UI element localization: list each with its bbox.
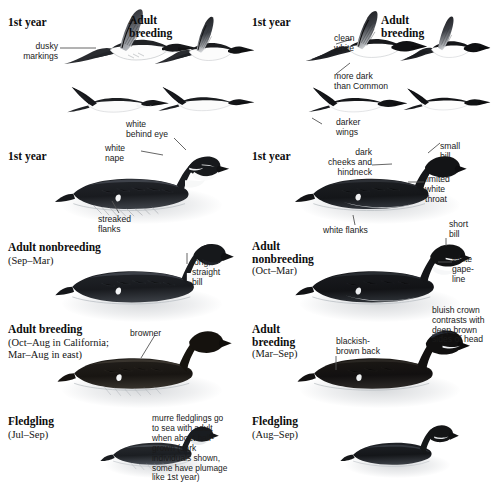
label-left-adult-nonbreeding-dates: (Sep–Mar)	[8, 255, 54, 267]
callout-limited-white-throat: limited white throat	[425, 175, 450, 204]
callout-white-gape-line: white gape- line	[452, 255, 474, 284]
callout-small-bill: small bill	[440, 142, 460, 162]
label-left-adult-breeding: Adult breeding	[8, 323, 82, 336]
callout-more-dark-than-common: more dark than Common	[334, 72, 388, 92]
field-guide-plate: 1st year Adult breeding dusky markings w…	[0, 0, 491, 483]
label-right-1st-year-swim: 1st year	[252, 150, 291, 163]
label-left-adult-nonbreeding: Adult nonbreeding	[8, 241, 101, 254]
label-left-adult-breeding-flight: Adult breeding	[129, 14, 172, 39]
label-left-1st-year-flight: 1st year	[8, 16, 47, 29]
label-left-fledgling: Fledgling	[8, 415, 54, 428]
label-right-adult-nonbreeding: Adult nonbreeding	[252, 240, 314, 265]
label-right-fledgling: Fledgling	[252, 415, 298, 428]
label-left-1st-year-swim: 1st year	[8, 150, 47, 163]
callout-browner: browner	[130, 329, 161, 339]
label-right-adult-nonbreeding-dates: (Oct–Mar)	[252, 265, 297, 277]
label-right-adult-breeding-flight: Adult breeding	[381, 14, 424, 39]
label-left-fledgling-dates: (Jul–Sep)	[8, 429, 48, 441]
label-right-1st-year-flight: 1st year	[252, 16, 291, 29]
callout-streaked-flanks: streaked flanks	[98, 215, 131, 235]
callout-white-behind-eye: white behind eye	[126, 120, 168, 140]
label-right-adult-breeding: Adult breeding	[252, 323, 295, 348]
callout-darker-wings: darker wings	[336, 118, 360, 138]
callout-dark-cheeks-hindneck: dark cheeks and hindneck	[296, 148, 372, 177]
note-left-fledgling: murre fledglings go to sea with adult wh…	[152, 414, 247, 483]
callout-bluish-crown: bluish crown contrasts with deep brown s…	[432, 306, 491, 345]
callout-blackish-brown-back: blackish- brown back	[336, 337, 380, 357]
callout-short-bill: short bill	[449, 220, 468, 240]
label-right-adult-breeding-dates: (Mar–Sep)	[252, 348, 298, 360]
callout-white-flanks: white flanks	[323, 226, 368, 236]
callout-long-straight-bill: long, straight bill	[192, 258, 220, 287]
callout-white-nape: white nape	[105, 144, 125, 164]
callout-clean-white: clean white	[334, 34, 355, 54]
label-left-adult-breeding-dates: (Oct–Aug in California; Mar–Aug in east)	[8, 337, 109, 361]
callout-dusky-markings: dusky markings	[0, 42, 58, 62]
label-right-fledgling-dates: (Aug–Sep)	[252, 429, 298, 441]
